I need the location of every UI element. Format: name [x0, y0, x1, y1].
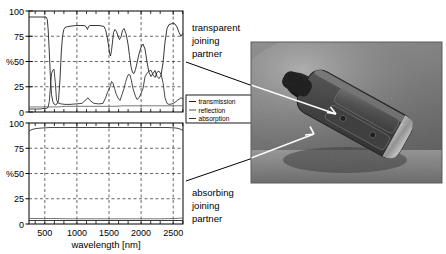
top-ytick-100: 100 — [9, 7, 24, 17]
xtick-1000: 1000 — [67, 228, 87, 238]
annotation-transparent-line2: joining — [191, 35, 219, 46]
top-ytick-50: 50 — [14, 57, 24, 67]
annotation-absorbing-line1: absorbing — [192, 187, 234, 198]
legend-label-absorption: absorption — [199, 115, 230, 123]
legend: transmission reflection absorption — [186, 95, 252, 123]
legend-label-transmission: transmission — [199, 98, 236, 105]
top-plot — [26, 11, 184, 112]
top-ytick-0: 0 — [19, 108, 24, 118]
xtick-2500: 2500 — [163, 228, 183, 238]
legend-label-reflection: reflection — [199, 107, 226, 114]
annotation-absorbing-line2: joining — [191, 200, 219, 211]
annotation-transparent-line3: partner — [192, 48, 222, 59]
bottom-ytick-50: 50 — [14, 169, 24, 179]
xtick-2000: 2000 — [131, 228, 151, 238]
annotation-absorbing-line3: partner — [192, 213, 222, 224]
xtick-500: 500 — [37, 228, 52, 238]
bottom-ytick-25: 25 — [14, 194, 24, 204]
xaxis-label: wavelength [nm] — [70, 239, 140, 250]
car-key-fob-photograph — [235, 33, 442, 183]
bottom-ytick-0: 0 — [19, 220, 24, 230]
bottom-plot-ylabel: % — [6, 169, 14, 179]
xtick-1500: 1500 — [99, 228, 119, 238]
top-ytick-25: 25 — [14, 82, 24, 92]
spectral-figure: 100 75 50 25 0 % — [0, 0, 446, 254]
bottom-plot — [26, 123, 184, 224]
bottom-ytick-100: 100 — [9, 119, 24, 129]
top-ytick-75: 75 — [14, 32, 24, 42]
top-plot-ylabel: % — [6, 57, 14, 67]
bottom-ytick-75: 75 — [14, 144, 24, 154]
annotation-transparent-line1: transparent — [192, 22, 240, 33]
